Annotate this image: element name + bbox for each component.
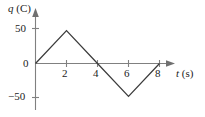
x-axis-unit: (s) [182, 67, 194, 79]
y-tick-label-50: 50 [15, 23, 26, 34]
y-tick-label-0: 0 [23, 58, 29, 69]
figure-container: q (C) t (s) 50 0 −50 2 4 6 8 [0, 0, 205, 117]
x-tick-label-8: 8 [155, 68, 161, 79]
x-axis-arrowhead [166, 60, 175, 67]
x-axis-title: t (s) [176, 68, 193, 79]
y-axis-title: q (C) [8, 3, 31, 14]
y-tick-label-neg50: −50 [8, 91, 25, 102]
y-axis-arrowhead [32, 8, 39, 17]
y-axis-unit: (C) [16, 2, 31, 14]
x-tick-label-6: 6 [124, 68, 130, 79]
plot-area [0, 0, 205, 117]
x-tick-label-4: 4 [93, 68, 99, 79]
x-tick-label-2: 2 [62, 68, 68, 79]
